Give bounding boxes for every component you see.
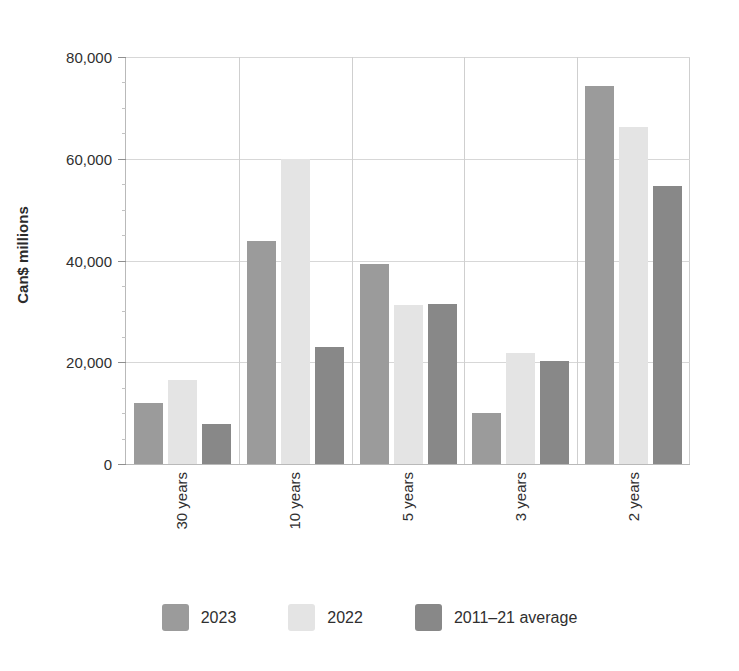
y-axis-tick xyxy=(118,57,126,58)
legend-item[interactable]: 2023 xyxy=(162,604,237,631)
x-axis-label-text: 10 years xyxy=(286,472,303,530)
bar xyxy=(168,380,197,464)
y-axis-minor-tick xyxy=(122,210,126,211)
y-axis-tick-label: 40,000 xyxy=(66,252,112,269)
group-separator xyxy=(352,57,353,464)
y-axis-title: Can$ millions xyxy=(8,140,36,370)
plot-area: 020,00040,00060,00080,000 xyxy=(125,57,690,465)
y-axis-minor-tick xyxy=(122,286,126,287)
y-axis-minor-tick xyxy=(122,82,126,83)
bar xyxy=(653,186,682,464)
legend-label: 2011–21 average xyxy=(454,609,577,627)
bar-chart: Can$ millions 020,00040,00060,00080,000 … xyxy=(0,0,739,671)
bar xyxy=(281,159,310,464)
y-axis-minor-tick xyxy=(122,235,126,236)
y-axis-minor-tick xyxy=(122,184,126,185)
y-axis-tick-label: 0 xyxy=(104,456,112,473)
gridline xyxy=(126,57,690,58)
group-separator xyxy=(464,57,465,464)
legend-swatch-icon xyxy=(415,604,442,631)
x-axis-label: 10 years xyxy=(279,472,309,572)
x-axis-label-text: 5 years xyxy=(399,472,416,521)
y-axis-minor-tick xyxy=(122,413,126,414)
y-axis-tick-label: 60,000 xyxy=(66,150,112,167)
y-axis-minor-tick xyxy=(122,439,126,440)
bar xyxy=(585,86,614,464)
y-axis-tick xyxy=(118,362,126,363)
bar xyxy=(315,347,344,464)
x-axis-label-text: 3 years xyxy=(511,472,528,521)
y-axis-minor-tick xyxy=(122,133,126,134)
y-axis-tick xyxy=(118,261,126,262)
y-axis-minor-tick xyxy=(122,311,126,312)
group-separator xyxy=(239,57,240,464)
x-axis-label-text: 30 years xyxy=(173,472,190,530)
legend-swatch-icon xyxy=(162,604,189,631)
y-axis-tick xyxy=(118,464,126,465)
y-axis-tick-label: 20,000 xyxy=(66,354,112,371)
bar xyxy=(202,424,231,464)
bar xyxy=(428,304,457,464)
y-axis-tick xyxy=(118,159,126,160)
y-axis-minor-tick xyxy=(122,337,126,338)
x-axis-label-text: 2 years xyxy=(624,472,641,521)
x-axis-label: 30 years xyxy=(166,472,196,572)
bar xyxy=(394,305,423,464)
legend: 202320222011–21 average xyxy=(0,604,739,631)
legend-item[interactable]: 2022 xyxy=(288,604,363,631)
bar xyxy=(619,127,648,464)
y-axis-tick-label: 80,000 xyxy=(66,49,112,66)
y-axis-minor-tick xyxy=(122,108,126,109)
bar xyxy=(247,241,276,464)
bar xyxy=(360,264,389,464)
y-axis-title-label: Can$ millions xyxy=(14,206,31,304)
legend-swatch-icon xyxy=(288,604,315,631)
bar xyxy=(540,361,569,464)
bar xyxy=(472,413,501,464)
x-axis-label: 5 years xyxy=(392,472,422,572)
x-axis-label: 2 years xyxy=(618,472,648,572)
bar xyxy=(134,403,163,464)
legend-label: 2022 xyxy=(327,609,363,627)
legend-item[interactable]: 2011–21 average xyxy=(415,604,577,631)
y-axis-minor-tick xyxy=(122,388,126,389)
bar xyxy=(506,353,535,464)
group-separator xyxy=(577,57,578,464)
x-axis-label: 3 years xyxy=(505,472,535,572)
legend-label: 2023 xyxy=(201,609,237,627)
